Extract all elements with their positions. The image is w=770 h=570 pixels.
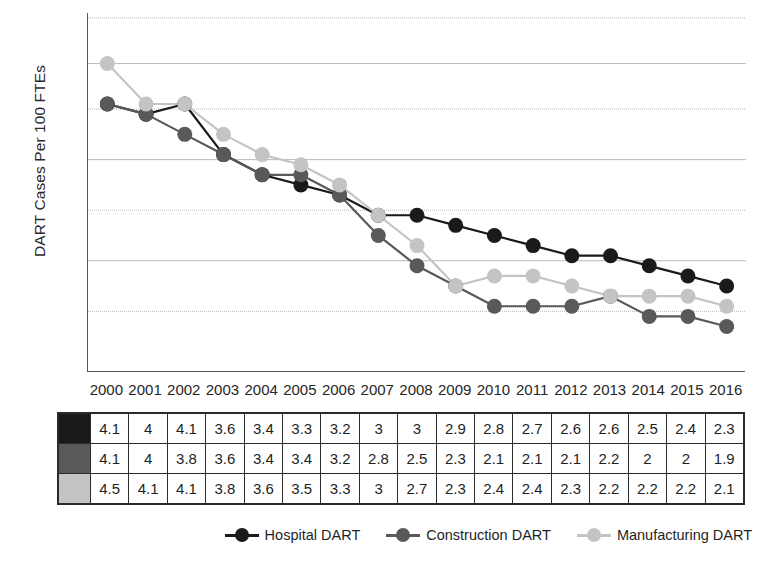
chart-legend: Hospital DARTConstruction DARTManufactur…: [0, 527, 752, 543]
series-markers: [100, 56, 734, 334]
x-axis-tick-2016: 2016: [699, 381, 753, 398]
table-cell: 2.1: [513, 444, 551, 474]
table-cell: 2.6: [590, 414, 628, 444]
table-cell: 3.3: [321, 474, 359, 504]
table-cell: 2.1: [475, 444, 513, 474]
legend-label: Construction DART: [426, 527, 551, 543]
table-cell: 2.7: [513, 414, 551, 444]
table-cell: 2.3: [436, 474, 474, 504]
table-cell: 3.4: [244, 414, 282, 444]
chart-plot-area: [87, 13, 745, 372]
table-cell: 4.1: [167, 414, 205, 444]
table-cell: 2.3: [436, 444, 474, 474]
table-cell: 2.1: [551, 444, 589, 474]
table-cell: 2.2: [628, 474, 666, 504]
legend-item[interactable]: Manufacturing DART: [577, 527, 752, 543]
legend-marker-icon: [386, 528, 420, 542]
series-lines: [107, 64, 726, 327]
table-cell: 3.2: [321, 444, 359, 474]
table-cell: 3.2: [321, 414, 359, 444]
table-cell: 4: [129, 444, 167, 474]
table-cell: 2.2: [667, 474, 705, 504]
table-cell: 3.6: [206, 444, 244, 474]
table-cell: 2.5: [628, 414, 666, 444]
table-cell: 3.4: [283, 444, 321, 474]
legend-marker-icon: [577, 528, 611, 542]
table-cell: 2.1: [705, 474, 744, 504]
table-cell: 3.8: [167, 444, 205, 474]
table-cell: 4: [129, 414, 167, 444]
chart-canvas: [88, 13, 746, 372]
table-cell: 4.1: [167, 474, 205, 504]
legend-label: Hospital DART: [265, 527, 361, 543]
table-cell: 4.1: [129, 474, 167, 504]
table-cell: 3.6: [206, 414, 244, 444]
table-cell: 2.5: [398, 444, 436, 474]
data-table: 4.144.13.63.43.33.2332.92.82.72.62.62.52…: [57, 412, 745, 505]
table-cell: 3.6: [244, 474, 282, 504]
table-cell: 2: [628, 444, 666, 474]
table-row: 4.143.83.63.43.43.22.82.52.32.12.12.12.2…: [59, 444, 744, 474]
series-color-swatch: [59, 414, 91, 444]
table-cell: 3.5: [283, 474, 321, 504]
series-color-swatch: [59, 474, 91, 504]
table-cell: 2.2: [590, 474, 628, 504]
table-cell: 2.8: [359, 444, 397, 474]
table-cell: 2.6: [551, 414, 589, 444]
table-cell: 2.3: [551, 474, 589, 504]
table-cell: 3.3: [283, 414, 321, 444]
table-cell: 2.4: [475, 474, 513, 504]
table-cell: 2.9: [436, 414, 474, 444]
series-color-swatch: [59, 444, 91, 474]
x-axis-tick-labels: 2000200120022003200420052006200720082009…: [87, 381, 745, 401]
table-cell: 2.4: [513, 474, 551, 504]
legend-marker-icon: [225, 528, 259, 542]
table-cell: 2.7: [398, 474, 436, 504]
table-cell: 2.2: [590, 444, 628, 474]
table-cell: 3: [359, 414, 397, 444]
table-cell: 3.8: [206, 474, 244, 504]
table-cell: 3.4: [244, 444, 282, 474]
table-cell: 2: [667, 444, 705, 474]
legend-label: Manufacturing DART: [617, 527, 752, 543]
legend-item[interactable]: Hospital DART: [225, 527, 361, 543]
table-cell: 4.1: [91, 414, 129, 444]
table-cell: 1.9: [705, 444, 744, 474]
table-cell: 3: [359, 474, 397, 504]
legend-item[interactable]: Construction DART: [386, 527, 551, 543]
table-row: 4.54.14.13.83.63.53.332.72.32.42.42.32.2…: [59, 474, 744, 504]
table-cell: 2.4: [667, 414, 705, 444]
table-cell: 4.1: [91, 444, 129, 474]
table-cell: 2.3: [705, 414, 744, 444]
table-cell: 2.8: [475, 414, 513, 444]
table-row: 4.144.13.63.43.33.2332.92.82.72.62.62.52…: [59, 414, 744, 444]
table-cell: 4.5: [91, 474, 129, 504]
table-cell: 3: [398, 414, 436, 444]
y-axis-title: DART Cases Per 100 FTEs: [31, 0, 49, 351]
